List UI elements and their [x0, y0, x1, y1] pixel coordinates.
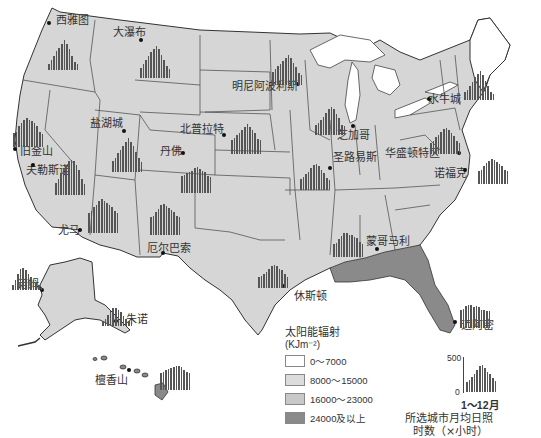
histogram-bar: [254, 133, 256, 154]
histogram-bar: [261, 276, 263, 288]
histogram-bar: [48, 64, 50, 70]
legend-swatch: [285, 355, 305, 367]
histogram-bar: [21, 123, 23, 147]
histogram-bar: [133, 146, 135, 172]
histogram-bar: [231, 140, 233, 154]
histogram-bar: [91, 211, 93, 233]
histogram-bar: [153, 49, 155, 78]
histogram-bar: [150, 52, 152, 78]
histogram-bar: [484, 368, 486, 392]
histogram-bar: [42, 134, 44, 147]
histogram-bar: [15, 280, 17, 290]
key-tick-max: 500: [447, 353, 461, 363]
histogram-bar: [325, 113, 327, 135]
city-label: 盐湖城: [90, 118, 123, 130]
histogram-bar: [275, 69, 277, 85]
histogram-bar: [71, 56, 73, 70]
histogram-bar: [120, 150, 122, 172]
histogram-bar: [78, 170, 80, 195]
histogram-bar: [494, 160, 496, 184]
legend-label: 16000～23000: [310, 392, 373, 406]
city-label: 北普拉特: [180, 124, 224, 136]
histogram-bar: [478, 171, 480, 184]
histogram-bar: [496, 162, 498, 184]
histogram-bar: [55, 183, 57, 195]
histogram-bar: [241, 130, 243, 154]
histogram-bar: [123, 316, 125, 326]
histogram-bar: [249, 127, 251, 154]
city-sunshine-histogram: [181, 153, 211, 193]
city-dot: [161, 251, 165, 255]
histogram-bar: [333, 244, 335, 257]
histogram-bar: [114, 211, 116, 233]
legend-unit: (KJm⁻²): [285, 339, 373, 350]
histogram-bar: [125, 319, 127, 326]
histogram-bar: [443, 129, 445, 154]
histogram-bar: [351, 235, 353, 257]
histogram-bar: [210, 177, 212, 193]
histogram-bar: [191, 171, 193, 193]
histogram-bar: [316, 164, 318, 190]
histogram-bar: [194, 168, 196, 193]
histogram-bar: [33, 280, 35, 290]
histogram-bar: [451, 133, 453, 154]
histogram-bar: [143, 64, 145, 78]
histogram-bar: [128, 138, 130, 172]
histogram-bar: [472, 82, 474, 100]
histogram-bar: [39, 132, 41, 147]
city-sunshine-histogram: [88, 193, 118, 233]
aleutian-islands: [18, 338, 40, 346]
histogram-bar: [171, 210, 173, 235]
histogram-bar: [53, 56, 55, 70]
histogram-bar: [290, 58, 292, 85]
histogram-bar: [234, 138, 236, 154]
histogram-bar: [440, 132, 442, 154]
histogram-bar: [356, 238, 358, 257]
histogram-bar: [284, 274, 286, 288]
histogram-bar: [318, 166, 320, 190]
histogram-bar: [479, 366, 481, 392]
histogram-bar: [165, 370, 167, 390]
histogram-bar: [476, 370, 478, 392]
city-sunshine-histogram: [460, 288, 490, 328]
legend-item: 24000及以上: [285, 411, 373, 424]
histogram-bar: [460, 310, 462, 328]
histogram-bar: [281, 270, 283, 288]
histogram-bar: [491, 159, 493, 184]
histogram-bar: [202, 171, 204, 193]
histogram-bar: [464, 92, 466, 100]
city-sunshine-histogram: [272, 45, 302, 85]
city-sunshine-histogram: [258, 248, 288, 288]
histogram-bar: [163, 204, 165, 235]
histogram-bar: [477, 74, 479, 100]
histogram-bar: [56, 51, 58, 70]
histogram-bar: [315, 125, 317, 135]
histogram-bar: [329, 180, 331, 190]
histogram-bar: [468, 305, 470, 328]
city-dot: [427, 97, 431, 101]
histogram-bar: [435, 137, 437, 154]
histogram-bar: [487, 372, 489, 392]
histogram-bar: [125, 142, 127, 172]
histogram-bar: [150, 217, 152, 235]
city-dot: [13, 147, 17, 151]
histogram-bar: [456, 141, 458, 154]
histogram-bar: [22, 268, 24, 290]
histogram-bar: [463, 309, 465, 328]
legend-item: 16000～23000: [285, 392, 373, 405]
legend-title: 太阳能辐射: [285, 323, 373, 339]
histogram-bar: [112, 161, 114, 172]
histogram-bar: [338, 239, 340, 257]
histogram-bar: [268, 269, 270, 288]
city-label: 圣路易斯: [333, 152, 377, 164]
city-dot: [31, 163, 35, 167]
histogram-bar: [29, 120, 31, 147]
histogram-bar: [303, 177, 305, 190]
histogram-bar: [341, 125, 343, 135]
histogram-bar: [170, 368, 172, 390]
histogram-bar: [117, 213, 119, 233]
histogram-bar: [160, 373, 162, 390]
histogram-bar: [313, 165, 315, 190]
histogram-bar: [295, 67, 297, 85]
